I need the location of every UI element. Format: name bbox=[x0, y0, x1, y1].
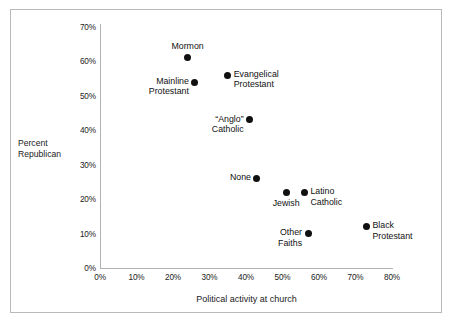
y-tick-label: 30% bbox=[62, 160, 96, 169]
y-tick-label: 20% bbox=[62, 195, 96, 204]
data-point-label-line: Black bbox=[372, 220, 453, 231]
data-point-label: None bbox=[121, 172, 251, 183]
y-axis-line bbox=[100, 24, 101, 269]
data-point[interactable] bbox=[224, 72, 231, 79]
x-tick-label: 10% bbox=[119, 273, 155, 282]
data-point[interactable] bbox=[191, 79, 198, 86]
y-axis-title: Percent Republican bbox=[18, 138, 61, 159]
data-point-label-line: Catholic bbox=[114, 124, 244, 135]
data-point[interactable] bbox=[246, 116, 253, 123]
data-point[interactable] bbox=[184, 54, 191, 61]
data-point-label-line: “Anglo” bbox=[114, 114, 244, 125]
data-point-label-line: Mormon bbox=[128, 41, 248, 52]
data-point-label: “Anglo”Catholic bbox=[114, 114, 244, 135]
y-tick-label: 10% bbox=[62, 229, 96, 238]
x-tick-label: 40% bbox=[228, 273, 264, 282]
data-point-label-line: Catholic bbox=[310, 197, 440, 208]
data-point[interactable] bbox=[305, 230, 312, 237]
data-point-label-line: Protestant bbox=[59, 86, 189, 97]
data-point-label: OtherFaiths bbox=[172, 227, 302, 248]
y-tick-label: 60% bbox=[62, 57, 96, 66]
data-point-label-line: Protestant bbox=[234, 79, 364, 90]
data-point-label: BlackProtestant bbox=[372, 220, 453, 241]
x-tick-label: 80% bbox=[374, 273, 410, 282]
data-point-label: MainlineProtestant bbox=[59, 76, 189, 97]
y-tick-label: 0% bbox=[62, 264, 96, 273]
data-point-label: LatinoCatholic bbox=[310, 186, 440, 207]
data-point-label-line: Faiths bbox=[172, 238, 302, 249]
data-point[interactable] bbox=[253, 175, 260, 182]
data-point[interactable] bbox=[301, 189, 308, 196]
x-tick-label: 70% bbox=[338, 273, 374, 282]
data-point[interactable] bbox=[283, 189, 290, 196]
x-tick-label: 30% bbox=[192, 273, 228, 282]
y-axis-title-line2: Republican bbox=[18, 149, 61, 160]
data-point-label-line: Other bbox=[172, 227, 302, 238]
data-point[interactable] bbox=[363, 223, 370, 230]
data-point-label-line: Latino bbox=[310, 186, 440, 197]
x-tick-label: 20% bbox=[155, 273, 191, 282]
y-tick-label: 70% bbox=[62, 23, 96, 32]
x-axis-title: Political activity at church bbox=[100, 294, 393, 304]
scatter-plot: 0%10%20%30%40%50%60%70% 0%10%20%30%40%50… bbox=[0, 0, 453, 328]
x-tick-label: 60% bbox=[301, 273, 337, 282]
data-point-label-line: Mainline bbox=[59, 76, 189, 87]
x-tick-label: 0% bbox=[82, 273, 118, 282]
x-tick-label: 50% bbox=[265, 273, 301, 282]
y-tick-label: 40% bbox=[62, 126, 96, 135]
data-point-label-line: Evangelical bbox=[234, 69, 364, 80]
data-point-label: Mormon bbox=[128, 41, 248, 52]
y-axis-title-line1: Percent bbox=[18, 138, 61, 149]
data-point-label: EvangelicalProtestant bbox=[234, 69, 364, 90]
data-point-label-line: Protestant bbox=[372, 231, 453, 242]
x-axis-line bbox=[100, 268, 393, 269]
data-point-label-line: None bbox=[121, 172, 251, 183]
